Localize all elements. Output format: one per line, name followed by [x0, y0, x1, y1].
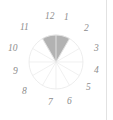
tick-label-12: 12 [45, 11, 55, 21]
tick-label-8: 8 [22, 86, 27, 96]
tick-label-1: 1 [64, 12, 69, 22]
tick-label-3: 3 [94, 43, 99, 53]
tick-label-6: 6 [67, 96, 72, 106]
tick-label-7: 7 [48, 97, 53, 107]
tick-label-2: 2 [84, 23, 89, 33]
tick-label-11: 11 [20, 22, 29, 32]
tick-label-9: 9 [13, 66, 18, 76]
figure-root: 12 1 2 3 4 5 6 7 8 9 10 11 [0, 0, 113, 120]
tick-label-5: 5 [86, 82, 91, 92]
tick-label-10: 10 [8, 43, 18, 53]
tick-label-4: 4 [94, 65, 99, 75]
polar-rose-chart [0, 0, 113, 120]
